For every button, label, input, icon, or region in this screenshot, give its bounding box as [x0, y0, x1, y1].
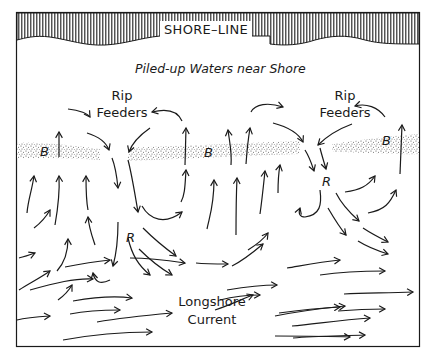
rip-feeders-line2: Feeders: [315, 104, 375, 121]
bar-marker-center: B: [204, 146, 213, 159]
shoreline-label: SHORE–LINE: [160, 21, 252, 38]
rip-feeders-line2: Feeders: [92, 104, 152, 121]
rip-feeders-label-left: Rip Feeders: [92, 87, 152, 121]
rip-marker-right: R: [322, 175, 331, 188]
rip-feeders-label-right: Rip Feeders: [315, 87, 375, 121]
bar-marker-left: B: [40, 145, 49, 158]
longshore-line1: Longshore: [152, 293, 272, 311]
longshore-line2: Current: [152, 311, 272, 329]
bar-marker-right: B: [382, 134, 391, 147]
diagram-title: Piled-up Waters near Shore: [135, 63, 306, 76]
rip-feeders-line1: Rip: [315, 87, 375, 104]
rip-feeders-line1: Rip: [92, 87, 152, 104]
longshore-current-label: Longshore Current: [152, 293, 272, 329]
rip-marker-left: R: [126, 231, 135, 244]
